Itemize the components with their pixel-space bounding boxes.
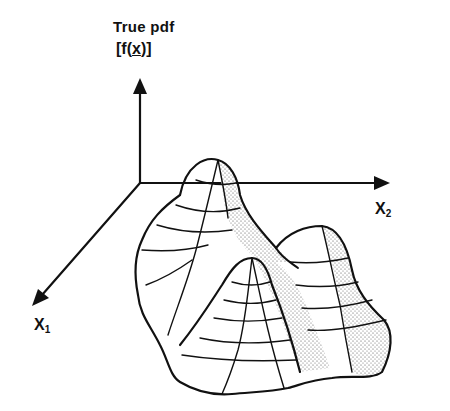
x1-axis — [42, 183, 140, 295]
x2-arrow-icon — [374, 176, 390, 190]
vertical-arrow-icon — [133, 78, 147, 94]
pdf-surface-diagram — [0, 0, 450, 411]
